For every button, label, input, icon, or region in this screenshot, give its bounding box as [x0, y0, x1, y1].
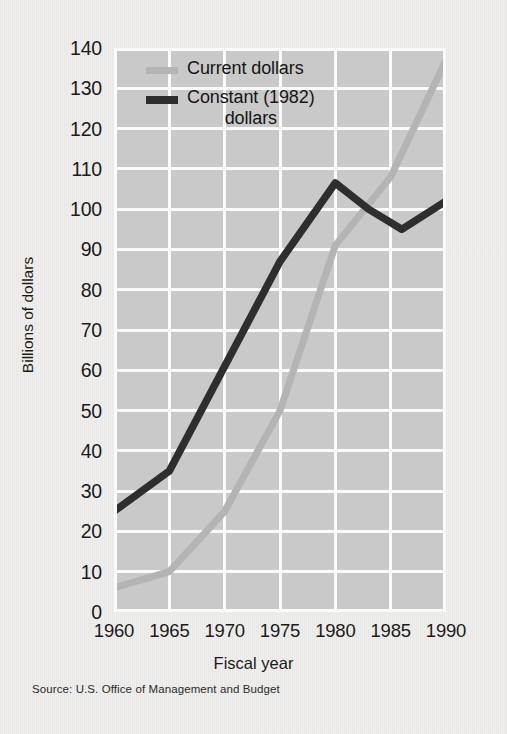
x-axis-title: Fiscal year — [0, 654, 507, 673]
y-axis-tick-label: 140 — [70, 37, 102, 60]
y-axis: 0102030405060708090100110120130140 — [0, 48, 114, 612]
y-axis-tick-label: 60 — [81, 359, 102, 382]
y-axis-tick-label: 10 — [81, 560, 102, 583]
legend-item-constant-dollars: Constant (1982)dollars — [146, 87, 386, 129]
legend-item-current-dollars: Current dollars — [146, 58, 386, 79]
x-axis-tick-label: 1965 — [149, 620, 189, 642]
y-axis-tick-label: 40 — [81, 439, 102, 462]
y-axis-tick-label: 110 — [72, 157, 103, 180]
legend-label-constant-dollars-line2: dollars — [187, 108, 315, 129]
y-axis-tick-label: 50 — [81, 399, 102, 422]
y-axis-title: Billions of dollars — [19, 225, 37, 405]
x-axis-tick-label: 1960 — [94, 620, 134, 642]
chart-legend: Current dollars Constant (1982)dollars — [146, 58, 386, 138]
y-axis-tick-label: 130 — [70, 77, 102, 100]
legend-swatch-current-dollars-icon — [146, 67, 178, 74]
chart-figure: 0102030405060708090100110120130140 Billi… — [0, 14, 507, 692]
x-axis-tick-label: 1990 — [426, 620, 466, 642]
y-axis-tick-label: 30 — [81, 480, 102, 503]
x-axis-tick-label: 1975 — [260, 620, 300, 642]
y-axis-tick-label: 120 — [70, 117, 102, 140]
legend-label-constant-dollars-line1: Constant (1982) — [187, 87, 315, 107]
legend-label-constant-dollars: Constant (1982)dollars — [187, 87, 315, 129]
x-axis-tick-label: 1980 — [315, 620, 355, 642]
y-axis-tick-label: 100 — [70, 198, 102, 221]
y-axis-tick-label: 80 — [81, 278, 102, 301]
legend-swatch-constant-dollars-icon — [146, 96, 178, 104]
y-axis-tick-label: 20 — [81, 520, 102, 543]
x-axis-tick-label: 1985 — [370, 620, 410, 642]
series-line — [114, 60, 446, 588]
series-line — [114, 183, 446, 511]
legend-label-current-dollars: Current dollars — [187, 58, 304, 79]
y-axis-tick-label: 70 — [81, 319, 102, 342]
source-note: Source: U.S. Office of Management and Bu… — [32, 683, 280, 695]
y-axis-tick-label: 90 — [81, 238, 102, 261]
x-axis-tick-label: 1970 — [204, 620, 244, 642]
